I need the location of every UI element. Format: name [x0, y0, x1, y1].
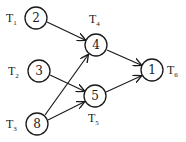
node-t4: T4 4 [85, 12, 107, 56]
node-weight-t4: 4 [92, 38, 100, 52]
edge-t3-t4 [45, 55, 88, 115]
node-t1: T1 2 [6, 7, 47, 29]
node-weight-t3: 8 [33, 117, 41, 131]
node-weight-t1: 2 [32, 11, 40, 25]
node-t3: T3 8 [6, 113, 48, 135]
edge-t1-t4 [47, 22, 85, 40]
task-label-t1: T1 [6, 11, 17, 27]
edge-t2-t5 [50, 75, 84, 91]
task-graph-diagram: T1 2 T2 3 T3 8 T4 4 5 T5 1 T6 [0, 0, 186, 142]
edge-t4-t6 [107, 50, 141, 65]
node-weight-t5: 5 [91, 89, 99, 103]
task-label-t6: T6 [167, 63, 178, 79]
task-label-t4: T4 [89, 12, 100, 28]
task-label-t2: T2 [8, 64, 19, 80]
node-weight-t2: 3 [35, 64, 43, 78]
edge-t5-t6 [106, 76, 141, 92]
node-t6: 1 T6 [141, 59, 178, 81]
edge-t3-t5 [48, 102, 84, 120]
node-t2: T2 3 [8, 60, 50, 82]
node-weight-t6: 1 [148, 63, 156, 77]
task-label-t5: T5 [88, 111, 99, 127]
task-label-t3: T3 [6, 117, 17, 133]
node-t5: 5 T5 [84, 85, 106, 127]
